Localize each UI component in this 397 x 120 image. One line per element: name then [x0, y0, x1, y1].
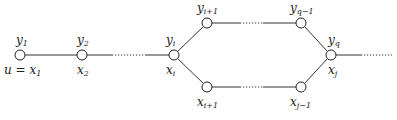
path-graph-diagram: y1 u = x1 y2 x2 yi xi yi+1 yq−1 xi+1 xj−…	[0, 0, 397, 120]
label-x2: x2	[77, 63, 89, 78]
node-top-left	[202, 18, 212, 28]
label-xj: xj	[328, 63, 338, 78]
node-x2	[77, 50, 87, 60]
node-xi	[169, 50, 179, 60]
label-xi: xi	[166, 63, 176, 78]
label-xi-plus-1: xi+1	[197, 95, 218, 110]
edge-top-right-xj	[305, 27, 328, 52]
label-y2: y2	[76, 33, 89, 48]
node-top-right	[296, 18, 306, 28]
label-yq: yq	[327, 33, 340, 48]
node-xj	[326, 50, 336, 60]
label-yq-minus-1: yq−1	[289, 1, 314, 16]
edge-bottom-right-xj	[305, 59, 328, 84]
label-y1: y1	[15, 33, 28, 48]
node-bottom-left	[202, 82, 212, 92]
edge-xi-top-left	[178, 27, 204, 52]
label-yi: yi	[165, 33, 176, 48]
label-xj-minus-1: xj−1	[290, 95, 311, 110]
node-x1	[15, 50, 25, 60]
label-x1: u = x1	[4, 63, 41, 78]
node-bottom-right	[296, 82, 306, 92]
edge-xi-bottom-left	[178, 59, 204, 84]
label-yi-plus-1: yi+1	[196, 1, 218, 16]
